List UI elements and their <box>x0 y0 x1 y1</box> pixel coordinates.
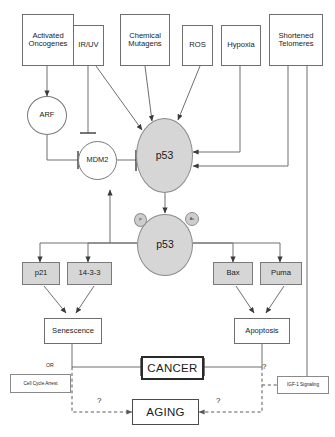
effector-label: p21 <box>35 269 48 278</box>
stimulus-shortened-telomeres[interactable]: Shortened Telomeres <box>269 14 323 66</box>
pathway-diagram: Activated Oncogenes IR/UV Chemical Mutag… <box>0 0 335 437</box>
outcome-cancer[interactable]: CANCER <box>141 356 204 380</box>
node-label: MDM2 <box>87 156 109 164</box>
node-mdm2[interactable]: MDM2 <box>78 141 117 180</box>
stimulus-label: IR/UV <box>78 41 98 50</box>
outcome-apoptosis[interactable]: Apoptosis <box>234 318 290 344</box>
effector-puma[interactable]: Puma <box>260 262 302 285</box>
effector-14-3-3[interactable]: 14-3-3 <box>67 262 112 285</box>
stimulus-ir-uv[interactable]: IR/UV <box>73 25 104 66</box>
phosphorylation-badge-icon: P <box>134 213 147 227</box>
effector-label: Puma <box>271 269 291 278</box>
stimulus-label: ROS <box>189 41 205 50</box>
node-arf[interactable]: ARF <box>27 96 67 135</box>
outcome-senescence[interactable]: Senescence <box>44 318 102 344</box>
outcome-label: AGING <box>146 406 185 419</box>
annotation-igf1-signaling[interactable]: IGF-1 Signaling <box>277 376 329 394</box>
outcome-label: Apoptosis <box>245 327 278 336</box>
effector-p21[interactable]: p21 <box>22 262 60 285</box>
question-mark-igf1: ? <box>262 362 266 371</box>
stimulus-chemical-mutagens[interactable]: Chemical Mutagens <box>120 14 170 66</box>
outcome-label: CANCER <box>147 362 197 375</box>
stimulus-label: Hypoxia <box>227 41 254 50</box>
stimulus-activated-oncogenes[interactable]: Activated Oncogenes <box>22 14 74 66</box>
annotation-label: IGF-1 Signaling <box>287 382 319 387</box>
annotation-label: Cell Cycle Arrest <box>24 381 58 386</box>
outcome-aging[interactable]: AGING <box>132 399 199 425</box>
stimulus-hypoxia[interactable]: Hypoxia <box>221 25 261 66</box>
stimulus-line-2: Oncogenes <box>29 40 68 49</box>
effector-label: 14-3-3 <box>79 269 101 278</box>
node-label: ARF <box>40 111 55 119</box>
stimulus-line-2: Telomeres <box>278 40 313 49</box>
stimulus-ros[interactable]: ROS <box>182 25 213 66</box>
node-label: p53 <box>156 150 174 162</box>
acetylation-badge-icon: Ac <box>185 212 199 226</box>
question-mark-apoptosis-aging: ? <box>216 396 220 405</box>
stimulus-line-2: Mutagens <box>128 40 161 49</box>
or-label: OR <box>46 362 54 368</box>
node-label: p53 <box>156 239 174 251</box>
effector-bax[interactable]: Bax <box>213 262 253 285</box>
badge-label: Ac <box>190 217 194 221</box>
badge-label: P <box>139 218 142 222</box>
annotation-cell-cycle-arrest[interactable]: Cell Cycle Arrest <box>10 374 71 393</box>
effector-label: Bax <box>226 269 239 278</box>
outcome-label: Senescence <box>52 327 94 336</box>
question-mark-senescence-aging: ? <box>97 396 101 405</box>
node-p53-upper[interactable]: p53 <box>136 118 193 193</box>
